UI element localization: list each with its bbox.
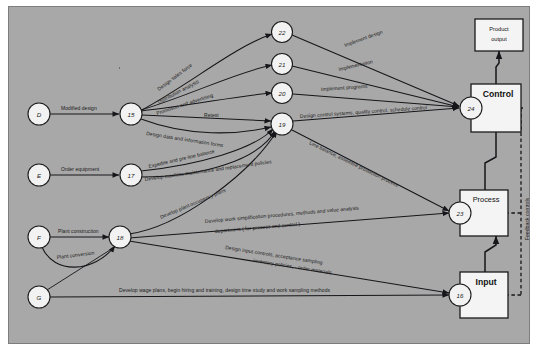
node-D[interactable]: D <box>28 103 50 125</box>
label-modified-design: Modified design <box>61 105 97 111</box>
diagram-page: Product output Control Process Input D E… <box>0 0 538 356</box>
node-19-label: 19 <box>279 121 286 128</box>
edge-22-24 <box>292 35 459 106</box>
label-plant-construction: Plant construction <box>58 228 99 234</box>
node-E[interactable]: E <box>28 164 50 186</box>
edge-g-16-wageplans <box>50 295 449 297</box>
node-18[interactable]: 18 <box>109 226 131 248</box>
label-develop-wage-plans: Develop wage plans, begin hiring and tra… <box>119 287 330 293</box>
link-control-process <box>485 132 496 190</box>
node-16-label: 16 <box>457 292 464 299</box>
link-control-product-output <box>496 51 499 84</box>
label-implementation: Implementation <box>338 58 374 72</box>
label-feedback-controls: Feedback controls <box>524 197 530 240</box>
node-24-label: 24 <box>467 105 475 112</box>
box-product-output-line2: output <box>491 36 507 42</box>
node-15[interactable]: 15 <box>120 103 142 125</box>
label-plant-conversion: Plant conversion <box>56 249 94 260</box>
label-retest: Retest <box>204 112 219 118</box>
node-19[interactable]: 19 <box>271 113 293 135</box>
box-product-output[interactable] <box>475 19 523 51</box>
label-develop-work-simplification-2: department ( for process and control ) <box>215 221 301 234</box>
edge-15-19-design-data <box>141 119 271 133</box>
box-product-output-line1: Product <box>489 26 509 32</box>
node-15-label: 15 <box>128 111 135 118</box>
link-input-process <box>485 236 496 272</box>
label-implement-design: Implement design <box>343 28 383 47</box>
node-24[interactable]: 24 <box>460 97 482 119</box>
label-expedite-and-pre-line-balance: Expedite and pre-line balance <box>148 148 215 169</box>
node-17[interactable]: 17 <box>120 164 142 186</box>
node-18-label: 18 <box>117 234 124 241</box>
node-21[interactable]: 21 <box>272 54 293 75</box>
node-17-label: 17 <box>128 172 135 179</box>
box-input-label: Input <box>476 277 497 287</box>
node-22[interactable]: 22 <box>272 22 293 43</box>
node-23[interactable]: 23 <box>449 202 471 224</box>
node-22-label: 22 <box>278 29 286 36</box>
label-line-balance: Line balance, assemble production proces… <box>309 140 400 189</box>
node-16[interactable]: 16 <box>449 284 471 306</box>
node-20-label: 20 <box>278 90 286 97</box>
node-G-label: G <box>37 294 42 301</box>
node-23-label: 23 <box>456 210 464 217</box>
node-G[interactable]: G <box>28 286 50 308</box>
diagram-svg: Product output Control Process Input D E… <box>9 7 530 344</box>
diagram-canvas: Product output Control Process Input D E… <box>8 6 530 344</box>
label-order-equipment: Order equipment <box>61 166 100 172</box>
label-implement-programs: Implement programs <box>321 83 369 92</box>
node-20[interactable]: 20 <box>272 83 293 104</box>
box-process-label: Process <box>473 195 500 204</box>
box-control-label: Control <box>483 89 514 99</box>
node-21-label: 21 <box>278 61 286 68</box>
node-F[interactable]: F <box>28 226 50 248</box>
node-D-label: D <box>37 111 42 118</box>
label-develop-work-simplification-1: Develop work simplification procedures, … <box>205 205 360 224</box>
label-develop-plant-occupancy-plans: Develop plant occupancy plans <box>159 187 227 220</box>
